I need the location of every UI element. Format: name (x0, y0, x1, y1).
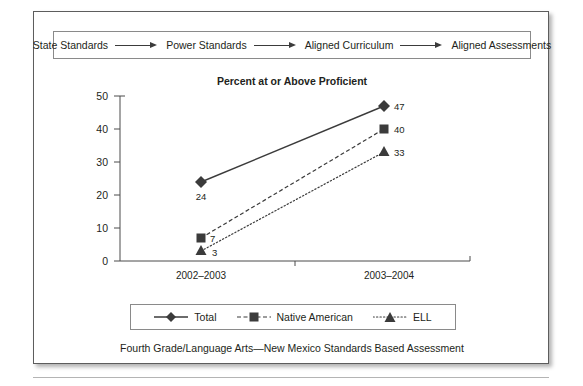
arrow-right-icon (115, 41, 159, 50)
chart-legend: Total Native American ELL (130, 304, 456, 330)
legend-item-total: Total (154, 311, 216, 323)
y-tick-20: 20 (96, 189, 108, 201)
data-point-native-american-2003 (380, 125, 389, 134)
x-tick-label-1: 2003–2004 (364, 270, 414, 281)
data-label-native-american-2003: 40 (394, 124, 405, 135)
y-tick-10: 10 (96, 222, 108, 234)
legend-label-total: Total (194, 312, 216, 323)
legend-label-native-american: Native American (277, 312, 353, 323)
y-tick-0: 0 (102, 255, 108, 267)
legend-label-ell: ELL (413, 312, 432, 323)
y-tick-40: 40 (96, 123, 108, 135)
legend-item-ell: ELL (373, 311, 432, 323)
data-label-total-2002: 24 (196, 191, 207, 202)
arrow-right-icon (254, 41, 298, 50)
y-tick-50: 50 (96, 90, 108, 102)
legend-marker-square-icon (237, 311, 271, 323)
data-label-ell-2003: 33 (394, 147, 405, 158)
data-point-ell-2002 (196, 245, 207, 255)
figure-container: State Standards Power Standards Aligned … (0, 0, 583, 386)
data-point-native-american-2002 (197, 234, 206, 243)
chart-title: Percent at or Above Proficient (34, 75, 550, 87)
flow-step-aligned-curriculum: Aligned Curriculum (305, 40, 394, 51)
data-point-ell-2003 (379, 146, 390, 156)
data-label-native-american-2002: 7 (210, 233, 215, 244)
flow-step-state-standards: State Standards (33, 40, 108, 51)
page-divider (33, 377, 549, 378)
data-point-total-2002 (195, 176, 207, 188)
series-line-total (201, 106, 384, 182)
y-axis-ticks (114, 96, 120, 261)
legend-item-native-american: Native American (237, 311, 353, 323)
data-label-ell-2002: 3 (212, 247, 217, 258)
legend-marker-triangle-icon (373, 311, 407, 323)
y-tick-30: 30 (96, 156, 108, 168)
legend-marker-diamond-icon (154, 311, 188, 323)
flow-step-power-standards: Power Standards (166, 40, 247, 51)
data-label-total-2003: 47 (394, 101, 405, 112)
standards-flow-bar: State Standards Power Standards Aligned … (53, 31, 531, 59)
data-point-total-2003 (378, 100, 390, 112)
series-line-ell (201, 152, 384, 251)
figure-frame: State Standards Power Standards Aligned … (33, 11, 549, 364)
series-line-native-american (201, 129, 384, 238)
flow-step-aligned-assessments: Aligned Assessments (451, 40, 551, 51)
x-tick-label-0: 2002–2003 (176, 270, 226, 281)
arrow-right-icon (400, 41, 444, 50)
y-axis-tick-labels: 0 10 20 30 40 50 (96, 90, 108, 267)
figure-caption: Fourth Grade/Language Arts—New Mexico St… (34, 342, 550, 354)
